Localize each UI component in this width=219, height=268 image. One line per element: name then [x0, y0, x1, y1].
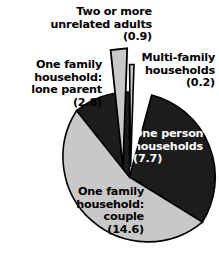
slice-label-one-family-household-couple: One family household: couple (14.6) — [48, 186, 144, 236]
slice-label-one-person-households: One person households (7.7) — [133, 128, 219, 166]
pie-chart: Two or more unrelated adults (0.9) One f… — [0, 0, 219, 268]
slice-label-two-or-more-unrelated-adults: Two or more unrelated adults (0.9) — [28, 6, 152, 44]
slice-label-one-family-household-lone-parent: One family household: lone parent (2.8) — [2, 59, 102, 109]
slice-label-multi-family-households: Multi-family households (0.2) — [121, 52, 215, 90]
